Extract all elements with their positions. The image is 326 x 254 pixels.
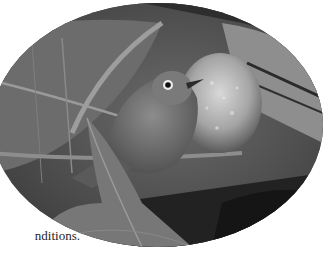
bird-photo-image (0, 3, 323, 247)
document-page: n rees nditions. (0, 0, 326, 254)
bird-photo (0, 3, 323, 247)
text-line: nditions. (0, 226, 80, 246)
